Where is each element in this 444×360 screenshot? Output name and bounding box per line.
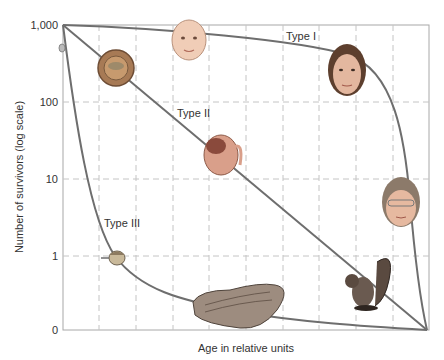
y-axis-label: Number of survivors (log scale) — [13, 101, 25, 253]
y-tick-1000: 1,000 — [30, 19, 58, 31]
type2-label: Type II — [177, 107, 210, 119]
acorn-icon — [101, 251, 125, 265]
y-tick-100: 100 — [40, 96, 58, 108]
elderly-woman-face-icon — [382, 177, 420, 227]
y-tick-1: 1 — [52, 250, 58, 262]
seed-marker-icon — [59, 44, 65, 52]
baby-face-icon — [172, 20, 206, 60]
y-tick-10: 10 — [46, 173, 58, 185]
y-tick-0: 0 — [52, 324, 58, 336]
seed-icon — [98, 50, 134, 86]
adult-woman-face-icon — [328, 44, 366, 96]
survivorship-chart: 1,000 100 10 1 0 Age in relative units N… — [0, 0, 444, 360]
type1-label: Type I — [286, 30, 316, 42]
x-axis-label: Age in relative units — [198, 342, 294, 354]
oyster-icon — [193, 284, 284, 328]
type3-label: Type III — [104, 217, 140, 229]
